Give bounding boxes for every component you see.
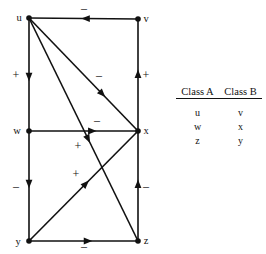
edge-u-x — [29, 18, 138, 131]
class-a-cell: w — [176, 120, 219, 134]
arrowhead-x-v — [135, 69, 142, 78]
node-label-u: u — [16, 12, 22, 23]
arrowhead-w-y — [26, 180, 33, 189]
edges-layer — [29, 18, 138, 241]
diagram-canvas: uvwxyz –++–––––++ Class A Class B uvwxzy — [0, 0, 266, 254]
class-b-cell: v — [219, 99, 262, 120]
node-w — [26, 128, 32, 134]
class-a-header: Class A — [176, 86, 219, 99]
node-x — [135, 128, 141, 134]
node-y — [26, 238, 32, 244]
edge-sign-x-v: + — [143, 68, 150, 82]
class-a-cell: z — [176, 134, 219, 148]
arrowhead-u-z — [83, 134, 90, 143]
class-b-cell: y — [219, 134, 262, 148]
class-table: Class A Class B uvwxzy — [176, 86, 262, 148]
arrowhead-u-w — [26, 73, 33, 82]
class-b-cell: x — [219, 120, 262, 134]
class-table-body: uvwxzy — [176, 99, 262, 148]
class-table-header-row: Class A Class B — [176, 86, 262, 99]
class-table-grid: Class A Class B uvwxzy — [176, 86, 262, 148]
arrowhead-v-u — [81, 15, 90, 22]
edge-sign-w-y: – — [12, 179, 20, 193]
edge-sign-y-x: + — [73, 167, 80, 181]
edge-sign-y-z: – — [80, 239, 88, 253]
node-label-v: v — [143, 13, 149, 24]
node-label-w: w — [13, 125, 21, 136]
arrowhead-w-x — [88, 128, 97, 135]
class-table-row: wx — [176, 120, 262, 134]
class-b-header: Class B — [219, 86, 262, 99]
class-table-row: uv — [176, 99, 262, 120]
edge-sign-u-w: + — [13, 68, 20, 82]
node-labels-layer: uvwxyz — [13, 12, 149, 247]
class-table-head: Class A Class B — [176, 86, 262, 99]
node-label-y: y — [15, 236, 21, 247]
node-z — [135, 238, 141, 244]
edge-sign-labels-layer: –++–––––++ — [12, 1, 150, 253]
edge-sign-u-x: – — [95, 68, 103, 82]
edge-sign-v-u: – — [80, 1, 88, 15]
edge-sign-z-x: – — [142, 179, 150, 193]
class-a-cell: u — [176, 99, 219, 120]
node-label-z: z — [144, 235, 149, 246]
node-label-x: x — [143, 125, 149, 136]
node-v — [135, 16, 141, 22]
edge-sign-u-z: + — [75, 139, 82, 153]
arrowhead-z-x — [135, 179, 142, 188]
edge-u-z — [29, 18, 138, 241]
node-u — [26, 15, 32, 21]
edge-sign-w-x: – — [93, 113, 101, 127]
class-table-row: zy — [176, 134, 262, 148]
